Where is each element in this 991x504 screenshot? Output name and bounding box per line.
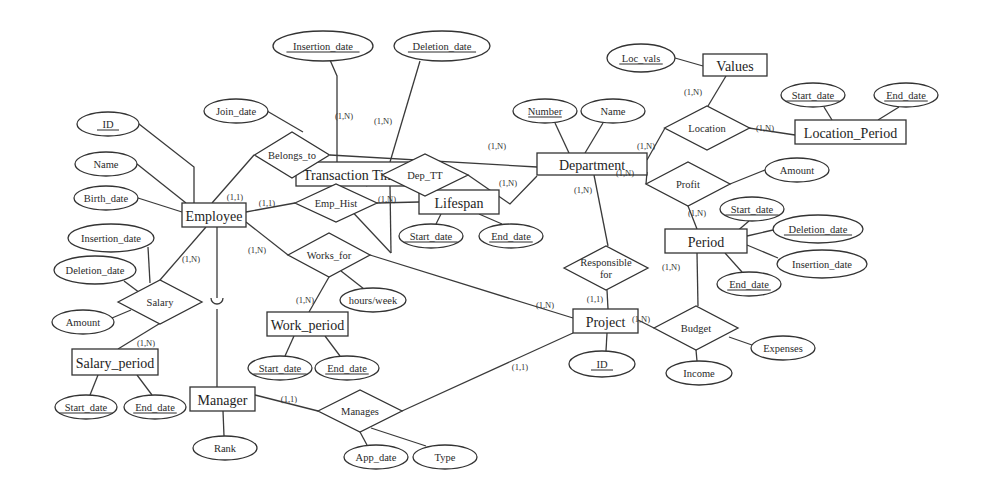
entity-project[interactable]: Project <box>573 309 638 333</box>
attribute-label: Insertion_date <box>293 41 353 52</box>
connector-line <box>747 245 778 258</box>
crossing-hop-arc <box>211 298 223 304</box>
attribute-profit-amount[interactable]: Amount <box>765 158 829 182</box>
connector-line <box>696 350 697 361</box>
cardinality-label: (1,N) <box>182 254 200 264</box>
entity-location-period[interactable]: Location_Period <box>795 120 906 144</box>
relationship-label: Works_for <box>307 250 352 261</box>
attribute-tt-insertion-date[interactable]: Insertion_date <box>273 31 373 61</box>
attribute-join-date[interactable]: Join_date <box>204 99 268 123</box>
entity-values[interactable]: Values <box>703 54 767 76</box>
attribute-emp-name[interactable]: Name <box>75 152 137 176</box>
er-diagram: Transaction TimeValuesLocation_PeriodDep… <box>0 0 991 504</box>
attribute-ls-start-date[interactable]: Start_date <box>399 224 463 248</box>
relationship-manages[interactable]: Manages <box>318 390 402 432</box>
relationship-profit[interactable]: Profit <box>646 162 730 206</box>
attribute-mgr-rank[interactable]: Rank <box>193 436 257 460</box>
connector-line <box>436 214 441 224</box>
attribute-label: End_date <box>327 363 367 374</box>
relationship-label: Dep_TT <box>407 170 443 181</box>
relationship-label: Belongs_to <box>268 150 316 161</box>
attribute-label: Start_date <box>410 231 453 242</box>
attribute-loc-vals[interactable]: Loc_vals <box>607 44 675 72</box>
attribute-sal-deletion-date[interactable]: Deletion_date <box>54 256 136 284</box>
connector-line <box>479 214 502 224</box>
attribute-label: Start_date <box>65 402 108 413</box>
entity-work-period[interactable]: Work_period <box>267 312 348 336</box>
entity-manager[interactable]: Manager <box>190 387 255 411</box>
connector-line <box>223 411 224 436</box>
attribute-budget-income[interactable]: Income <box>666 361 732 385</box>
connector-line <box>730 170 765 184</box>
attribute-label: Name <box>93 159 118 170</box>
attribute-lp-start-date[interactable]: Start_date <box>781 83 845 107</box>
connector-line <box>878 107 899 120</box>
attribute-label: Insertion_date <box>792 259 852 270</box>
attribute-period-deletion-date[interactable]: Deletion_date <box>773 215 863 243</box>
cardinality-label: (1,N) <box>536 300 554 310</box>
attribute-period-insertion-date[interactable]: Insertion_date <box>777 250 867 278</box>
connector-line <box>371 428 426 446</box>
attribute-emp-birth-date[interactable]: Birth_date <box>74 186 138 210</box>
cardinality-label: (1,N) <box>662 262 680 272</box>
connector-line <box>606 333 607 351</box>
attribute-label: Loc_vals <box>622 53 661 64</box>
cardinality-label: (1,N) <box>248 245 266 255</box>
attribute-wp-start-date[interactable]: Start_date <box>248 356 312 380</box>
connector-line <box>148 247 150 283</box>
connector-line <box>390 61 420 162</box>
connector-line <box>285 336 294 356</box>
connector-line <box>824 107 832 120</box>
attribute-tt-deletion-date[interactable]: Deletion_date <box>394 31 490 61</box>
cardinality-label: (1,1) <box>259 198 275 208</box>
attribute-app-date[interactable]: App_date <box>344 445 408 469</box>
entity-label: Period <box>688 235 725 250</box>
relationship-label: Profit <box>676 179 700 190</box>
entity-label: Manager <box>198 393 248 408</box>
attribute-sp-start-date[interactable]: Start_date <box>55 395 117 419</box>
cardinality-label: (1,N) <box>756 123 774 133</box>
attribute-period-end-date[interactable]: End_date <box>717 272 781 296</box>
relationship-label: Manages <box>341 406 379 417</box>
relationship-works-for[interactable]: Works_for <box>288 233 370 277</box>
entity-period[interactable]: Period <box>665 229 747 253</box>
attribute-period-start-date[interactable]: Start_date <box>720 197 784 221</box>
attribute-lp-end-date[interactable]: End_date <box>874 83 938 107</box>
attribute-label: ID <box>102 119 113 130</box>
attribute-hours-week[interactable]: hours/week <box>340 288 406 312</box>
entity-salary-period[interactable]: Salary_period <box>72 349 158 375</box>
attribute-emp-id[interactable]: ID <box>77 112 139 136</box>
attribute-type[interactable]: Type <box>413 445 477 469</box>
attribute-label: Start_date <box>731 204 774 215</box>
connector-line <box>585 123 603 153</box>
attribute-sal-amount[interactable]: Amount <box>52 310 114 334</box>
attribute-label: Birth_date <box>84 193 129 204</box>
connector-line <box>402 333 573 411</box>
relationship-responsible-for[interactable]: Responsiblefor <box>564 246 648 290</box>
attribute-sp-end-date[interactable]: End_date <box>124 395 186 419</box>
attribute-sal-insertion-date[interactable]: Insertion_date <box>68 224 154 252</box>
connector-line <box>137 164 186 203</box>
attribute-wp-end-date[interactable]: End_date <box>315 356 379 380</box>
attributes: Insertion_dateDeletion_dateLoc_valsStart… <box>52 31 938 469</box>
entity-employee[interactable]: Employee <box>182 203 246 227</box>
cardinality-label: (1,N) <box>688 208 706 218</box>
attribute-label: Income <box>683 368 715 379</box>
attribute-dept-name[interactable]: Name <box>581 99 645 123</box>
attribute-label: App_date <box>356 452 397 463</box>
cardinality-label: (1,N) <box>335 111 353 121</box>
cardinality-label: (1,N) <box>684 87 702 97</box>
attribute-label: Name <box>600 106 625 117</box>
attribute-proj-id[interactable]: ID <box>569 351 635 377</box>
connector-line <box>138 198 182 212</box>
attribute-dept-number[interactable]: Number <box>513 99 577 123</box>
attribute-budget-expenses[interactable]: Expenses <box>751 336 815 360</box>
relationship-budget[interactable]: Budget <box>654 306 738 350</box>
relationship-location[interactable]: Location <box>665 106 750 150</box>
connector-line <box>675 58 703 66</box>
cardinality-label: (1,N) <box>632 314 650 324</box>
relationship-emp-hist[interactable]: Emp_Hist <box>295 184 377 222</box>
attribute-label: Amount <box>66 317 101 328</box>
attribute-label: Expenses <box>763 343 803 354</box>
attribute-ls-end-date[interactable]: End_date <box>479 224 543 248</box>
